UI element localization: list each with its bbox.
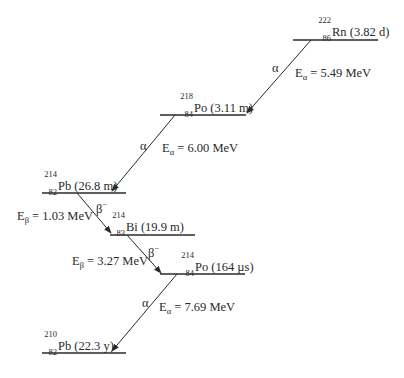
element-symbol: Po (195, 260, 208, 274)
nuclide-label-bi214: 21483Bi (19.9 m) (108, 217, 184, 233)
decay-type: α (272, 61, 279, 75)
energy-subscript: β (80, 260, 84, 270)
nuclide-label-po218: 21884Po (3.11 m) (176, 98, 253, 114)
mass-number: 214 (44, 170, 57, 179)
half-life: (3.82 d) (350, 25, 390, 39)
nuclide-label-pb214: 21482Pb (26.8 m) (40, 176, 117, 192)
half-life: (164 µs) (211, 260, 253, 274)
energy-value: = 3.27 MeV (87, 254, 148, 268)
atomic-number: 86 (323, 34, 332, 43)
mass-number: 214 (112, 211, 125, 220)
energy-value: = 6.00 MeV (177, 141, 238, 155)
half-life: (22.3 y) (74, 339, 114, 353)
energy-label-po214: Eα = 7.69 MeV (159, 301, 235, 316)
half-life: (26.8 m) (74, 179, 117, 193)
element-symbol: Pb (58, 339, 71, 353)
energy-label-pb214: Eβ = 1.03 MeV (17, 210, 93, 225)
half-life: (3.11 m) (210, 101, 253, 115)
mass-number: 222 (318, 16, 331, 25)
element-symbol: Rn (332, 25, 347, 39)
decay-type: α (140, 139, 147, 153)
nuclide-label-rn222: 22286Rn (3.82 d) (314, 22, 389, 38)
energy-subscript: α (167, 306, 171, 316)
energy-value: = 5.49 MeV (310, 66, 371, 80)
nuclide-label-po214: 21484Po (164 µs) (177, 257, 254, 273)
energy-symbol: E (295, 66, 303, 80)
energy-label-po218: Eα = 6.00 MeV (162, 142, 238, 157)
mass-number: 210 (44, 330, 57, 339)
atomic-number: 84 (186, 269, 195, 278)
element-symbol: Pb (58, 179, 71, 193)
atomic-number: 82 (49, 348, 58, 357)
energy-value: = 1.03 MeV (32, 209, 93, 223)
element-symbol: Bi (126, 220, 138, 234)
atomic-number: 82 (49, 188, 58, 197)
decay-type-label-pb214: β− (96, 200, 107, 216)
decay-type-label-rn222: α (272, 62, 279, 75)
nuclide-label-pb210: 21082Pb (22.3 y) (40, 336, 114, 352)
mass-number: 214 (181, 251, 194, 260)
decay-type-sup: − (102, 199, 107, 209)
mass-number: 218 (180, 92, 193, 101)
energy-label-bi214: Eβ = 3.27 MeV (72, 255, 148, 270)
energy-symbol: E (162, 141, 170, 155)
decay-type-sup: − (154, 243, 159, 253)
decay-type: α (142, 296, 149, 310)
energy-subscript: β (25, 215, 29, 225)
energy-value: = 7.69 MeV (174, 300, 235, 314)
half-life: (19.9 m) (141, 220, 184, 234)
energy-subscript: α (170, 147, 174, 157)
energy-symbol: E (17, 209, 25, 223)
atomic-number: 83 (117, 229, 126, 238)
element-symbol: Po (194, 101, 207, 115)
decay-type-label-po218: α (140, 140, 147, 153)
energy-subscript: α (303, 72, 307, 82)
atomic-number: 84 (185, 110, 194, 119)
energy-label-rn222: Eα = 5.49 MeV (295, 67, 371, 82)
energy-symbol: E (159, 300, 167, 314)
energy-symbol: E (72, 254, 80, 268)
decay-type-label-po214: α (142, 297, 149, 310)
decay-type-label-bi214: β− (148, 244, 159, 260)
